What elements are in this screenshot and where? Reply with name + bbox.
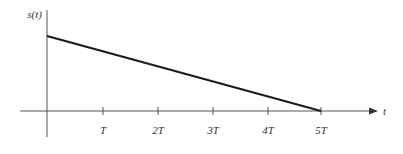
chart: s(t) t T 2T 3T 4T 5T bbox=[0, 0, 403, 154]
tick-label-3T: 3T bbox=[206, 124, 220, 136]
x-axis-label: t bbox=[383, 105, 387, 117]
tick-label-5T: 5T bbox=[315, 124, 328, 136]
x-axis-arrow-icon bbox=[369, 108, 378, 115]
tick-label-T: T bbox=[100, 124, 107, 136]
tick-label-2T: 2T bbox=[152, 124, 165, 136]
y-axis-label: s(t) bbox=[27, 8, 42, 21]
signal-line bbox=[47, 36, 321, 111]
tick-label-4T: 4T bbox=[262, 124, 275, 136]
